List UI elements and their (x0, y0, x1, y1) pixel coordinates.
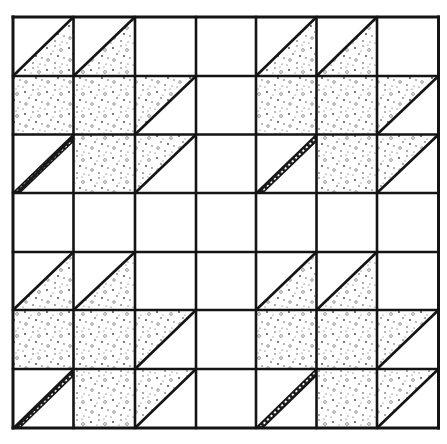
quilt-cell-lower-right-triangle-stipple (13, 252, 74, 310)
quilt-grid (0, 0, 447, 444)
quilt-cell-full-stipple (317, 369, 378, 428)
quilt-cell-upper-left-triangle-stipple (135, 310, 196, 369)
quilt-cell-full-stipple (13, 310, 74, 369)
quilt-cell-full-stipple (13, 76, 74, 135)
quilt-cell-lower-right-triangle-stipple (317, 17, 378, 76)
quilt-cell-lower-right-triangle-stipple (74, 17, 136, 76)
quilt-cell-lower-right-triangle-stipple (256, 252, 317, 310)
quilt-cell-full-stipple (74, 135, 136, 194)
quilt-diagram (0, 0, 447, 444)
quilt-cell-full-stipple (74, 369, 136, 428)
quilt-cell-upper-left-triangle-stipple (377, 76, 439, 135)
quilt-cell-full-stipple (74, 310, 136, 369)
quilt-cell-upper-left-triangle-stipple (377, 135, 439, 194)
quilt-cell-diagonal-stem-band (14, 136, 73, 193)
quilt-cell-diagonal-stem-band (257, 370, 316, 427)
quilt-cell-full-stipple (317, 135, 378, 194)
quilt-cell-upper-left-triangle-stipple (135, 135, 196, 194)
quilt-cell-diagonal-stem-band (257, 136, 316, 193)
quilt-cell-full-stipple (256, 310, 317, 369)
quilt-cell-upper-left-triangle-stipple (377, 310, 439, 369)
quilt-cell-lower-right-triangle-stipple (13, 17, 74, 76)
quilt-cell-full-stipple (74, 76, 136, 135)
quilt-cell-lower-right-triangle-stipple (256, 17, 317, 76)
cells-layer (13, 17, 439, 428)
quilt-cell-lower-right-triangle-stipple (74, 252, 136, 310)
quilt-cell-upper-left-triangle-stipple (135, 76, 196, 135)
quilt-cell-upper-left-triangle-stipple (135, 369, 196, 428)
quilt-cell-full-stipple (256, 76, 317, 135)
quilt-cell-lower-right-triangle-stipple (317, 252, 378, 310)
quilt-cell-full-stipple (317, 76, 378, 135)
quilt-cell-full-stipple (317, 310, 378, 369)
quilt-cell-upper-left-triangle-stipple (377, 369, 439, 428)
quilt-cell-diagonal-stem-band (14, 370, 73, 427)
